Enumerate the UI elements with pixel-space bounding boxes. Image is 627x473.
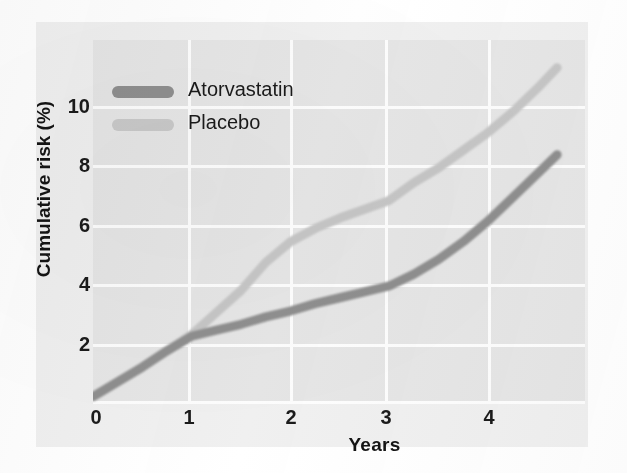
legend-swatch-placebo: [112, 119, 174, 131]
legend-item-atorvastatin: Atorvastatin: [112, 78, 342, 111]
y-tick-label-10: 10: [56, 95, 90, 118]
chart-figure: Atorvastatin Placebo 10 8 6 4 2 0 1 2 3 …: [0, 0, 627, 473]
legend-swatch-atorvastatin: [112, 86, 174, 98]
legend-item-placebo: Placebo: [112, 111, 342, 144]
x-tick-label-2: 2: [276, 406, 306, 429]
y-axis-tick-labels: 10 8 6 4 2: [50, 40, 90, 403]
x-tick-label-0: 0: [81, 406, 111, 429]
legend-label-atorvastatin: Atorvastatin: [188, 78, 294, 101]
series-line-atorvastatin: [93, 155, 557, 397]
y-tick-label-2: 2: [56, 333, 90, 356]
x-axis-title: Years: [348, 434, 400, 456]
plot-area: Atorvastatin Placebo: [93, 40, 585, 403]
x-tick-label-1: 1: [174, 406, 204, 429]
legend-label-placebo: Placebo: [188, 111, 260, 134]
x-axis-title-wrap: Years: [0, 434, 627, 456]
chart-legend: Atorvastatin Placebo: [112, 78, 342, 144]
y-tick-label-4: 4: [56, 273, 90, 296]
y-axis-title: Cumulative risk (%): [33, 59, 55, 319]
y-tick-label-6: 6: [56, 214, 90, 237]
x-axis-tick-labels: 0 1 2 3 4: [93, 406, 593, 436]
x-tick-label-3: 3: [371, 406, 401, 429]
y-tick-label-8: 8: [56, 154, 90, 177]
x-tick-label-4: 4: [474, 406, 504, 429]
